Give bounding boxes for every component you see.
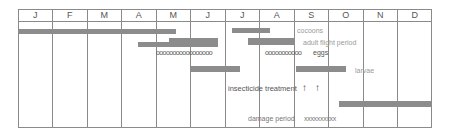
eggs-marks-spring: ooooooooooooooooo xyxy=(156,49,212,57)
arrow-up-icon: ↑ xyxy=(315,83,320,93)
eggs-marks-summer: ooooooooooo xyxy=(265,49,301,57)
month-label-may: M xyxy=(156,10,191,21)
month-label-aug: A xyxy=(260,10,295,21)
life-cycle-chart: J F M A M J J A S O N D cocoons adult fl… xyxy=(0,0,450,135)
label-adult-flight: adult flight period xyxy=(303,39,356,47)
month-label-oct: O xyxy=(329,10,364,21)
damage-marks: xxxxxxxxxx xyxy=(304,115,336,123)
grid-line xyxy=(121,9,122,128)
label-eggs: eggs xyxy=(313,49,328,57)
month-label-sep: S xyxy=(294,10,329,21)
month-label-jun: J xyxy=(191,10,226,21)
label-larvae: larvae xyxy=(355,67,374,75)
label-cocoons: cocoons xyxy=(297,27,323,35)
label-insecticide-treatment: insecticide treatment xyxy=(228,85,297,93)
month-label-jan: J xyxy=(18,10,53,21)
bar-adult-flight-spring-a xyxy=(138,42,170,47)
bar-adult-flight xyxy=(248,38,295,45)
month-label-jul: J xyxy=(225,10,260,21)
bar-overwintering-autumn xyxy=(339,101,432,107)
label-damage-period: damage period xyxy=(248,115,295,123)
month-label-mar: M xyxy=(87,10,122,21)
month-label-feb: F xyxy=(53,10,88,21)
arrow-up-icon: ↑ xyxy=(302,83,307,93)
grid-line xyxy=(259,9,260,128)
grid-line xyxy=(156,9,157,128)
month-label-nov: N xyxy=(363,10,398,21)
bar-larvae-summer xyxy=(191,66,240,72)
bar-adult-flight-spring-b xyxy=(169,38,218,47)
grid-line xyxy=(397,9,398,128)
bar-cocoons xyxy=(232,28,270,33)
grid-line xyxy=(52,9,53,128)
month-label-apr: A xyxy=(122,10,157,21)
grid-line xyxy=(294,9,295,128)
month-label-dec: D xyxy=(398,10,433,21)
bar-overwintering-spring xyxy=(18,29,176,34)
grid-line xyxy=(87,9,88,128)
bar-larvae xyxy=(296,66,346,72)
